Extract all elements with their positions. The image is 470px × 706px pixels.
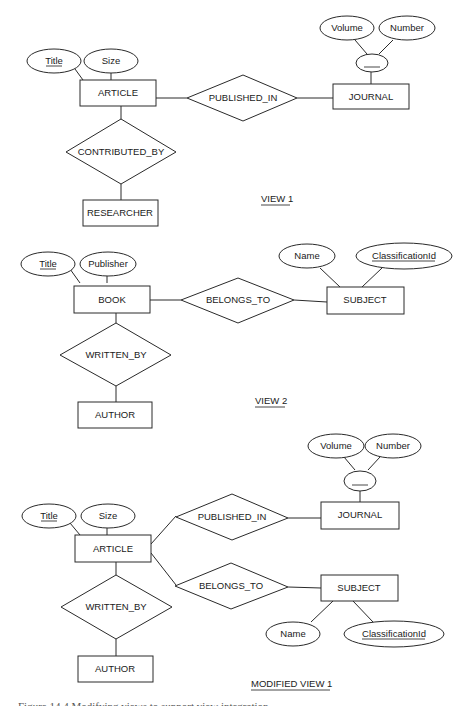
attribute-volume-label: Volume (331, 22, 363, 33)
svg-text:VIEW 2: VIEW 2 (255, 395, 287, 406)
attribute-name: Name (266, 622, 320, 646)
svg-text:MODIFIED VIEW 1: MODIFIED VIEW 1 (251, 678, 332, 689)
entity-subject: SUBJECT (321, 575, 398, 601)
entity-journal: JOURNAL (321, 502, 399, 529)
relationship-written-by: WRITTEN_BY (61, 575, 172, 639)
entity-article: ARTICLE (75, 535, 151, 562)
relationship-written-by-label: WRITTEN_BY (85, 601, 147, 612)
relationship-contributed-by: CONTRIBUTED_BY (66, 119, 176, 184)
attribute-title: Title (21, 252, 75, 276)
entity-author-label: AUTHOR (95, 663, 135, 674)
entity-author: AUTHOR (78, 402, 152, 428)
attribute-classification-id-label: ClassificationId (362, 628, 426, 639)
attribute-number-label: Number (376, 440, 410, 451)
attribute-classification-id: ClassificationId (344, 621, 444, 647)
attribute-publisher-label: Publisher (88, 258, 128, 269)
entity-researcher-label: RESEARCHER (87, 207, 153, 218)
attribute-title-label: Title (40, 510, 58, 521)
relationship-belongs-to: BELONGS_TO (175, 563, 288, 609)
view-1-label: VIEW 1 (261, 193, 293, 205)
attribute-name-label: Name (294, 250, 319, 261)
attribute-title: Title (22, 504, 76, 528)
attribute-volume: Volume (320, 16, 374, 40)
relationship-belongs-to: BELONGS_TO (181, 278, 294, 323)
entity-article-label: ARTICLE (98, 87, 138, 98)
modified-view-1-label: MODIFIED VIEW 1 (251, 678, 332, 690)
entity-article: ARTICLE (80, 80, 156, 106)
entity-author-label: AUTHOR (95, 409, 135, 420)
relationship-written-by: WRITTEN_BY (60, 323, 171, 386)
attribute-name-label: Name (280, 628, 305, 639)
composite-attribute (344, 471, 376, 491)
relationship-published-in-label: PUBLISHED_IN (198, 511, 267, 522)
attribute-size: Size (84, 49, 138, 73)
view-2-label: VIEW 2 (255, 395, 287, 407)
relationship-written-by-label: WRITTEN_BY (85, 349, 147, 360)
relationship-published-in: PUBLISHED_IN (187, 75, 297, 121)
modified-view-1: Title Size Volume Number Name Classifica… (22, 434, 444, 690)
view-2: Title Publisher Name ClassificationId BO… (21, 243, 452, 428)
relationship-published-in: PUBLISHED_IN (176, 494, 288, 540)
relationship-belongs-to-label: BELONGS_TO (199, 580, 263, 591)
attribute-volume: Volume (308, 434, 364, 458)
entity-book: BOOK (74, 286, 150, 313)
entity-journal-label: JOURNAL (349, 91, 393, 102)
attribute-size: Size (81, 504, 135, 528)
attribute-publisher: Publisher (80, 252, 136, 276)
entity-subject-label: SUBJECT (337, 582, 380, 593)
attribute-number: Number (365, 434, 421, 458)
attribute-title: Title (27, 49, 81, 73)
attribute-volume-label: Volume (320, 440, 352, 451)
entity-researcher: RESEARCHER (83, 200, 158, 226)
attribute-classification-id-label: ClassificationId (372, 250, 436, 261)
attribute-title-label: Title (45, 55, 63, 66)
relationship-published-in-label: PUBLISHED_IN (209, 92, 278, 103)
attribute-number-label: Number (390, 22, 424, 33)
attribute-title-label: Title (39, 258, 57, 269)
relationship-contributed-by-label: CONTRIBUTED_BY (78, 146, 165, 157)
attribute-size-label: Size (99, 510, 117, 521)
entity-journal: JOURNAL (333, 84, 409, 109)
figure-caption: Figure 14.4 Modifying views to support v… (18, 697, 318, 706)
attribute-name: Name (279, 244, 335, 268)
attribute-size-label: Size (102, 55, 120, 66)
er-diagram-canvas: Title Size Volume Number ARTICLE JOURNAL (0, 0, 470, 706)
composite-attribute (356, 54, 388, 72)
entity-journal-label: JOURNAL (338, 509, 382, 520)
attribute-number: Number (379, 16, 435, 40)
entity-article-label: ARTICLE (93, 543, 133, 554)
entity-book-label: BOOK (98, 294, 126, 305)
entity-subject: SUBJECT (327, 287, 404, 314)
svg-text:VIEW 1: VIEW 1 (261, 193, 293, 204)
entity-author: AUTHOR (78, 656, 153, 682)
view-1: Title Size Volume Number ARTICLE JOURNAL (27, 16, 435, 226)
entity-subject-label: SUBJECT (343, 294, 386, 305)
attribute-classification-id: ClassificationId (356, 243, 452, 269)
relationship-belongs-to-label: BELONGS_TO (206, 294, 270, 305)
